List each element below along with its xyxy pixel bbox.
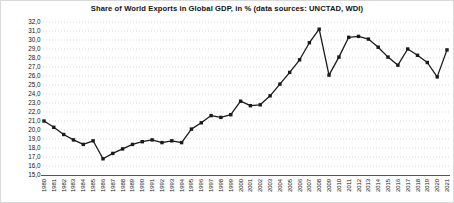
y-tick-label: 21,0 <box>28 117 41 124</box>
data-point-marker <box>288 71 291 74</box>
data-point-marker <box>160 141 163 144</box>
x-tick-label: 1981 <box>51 179 57 192</box>
data-point-marker <box>141 140 144 143</box>
data-point-marker <box>416 54 419 57</box>
x-tick-label: 2012 <box>356 179 362 192</box>
data-point-marker <box>209 114 212 117</box>
data-point-marker <box>170 139 173 142</box>
data-point-marker <box>445 48 448 51</box>
x-tick-label: 1982 <box>61 179 67 192</box>
y-tick-label: 32,0 <box>28 18 41 25</box>
x-tick-label: 1980 <box>41 178 47 192</box>
x-tick-label: 1992 <box>159 179 165 192</box>
x-tick-label: 2014 <box>375 178 381 192</box>
x-tick-label: 2002 <box>257 179 263 192</box>
x-tick-label: 1994 <box>179 178 185 192</box>
y-tick-label: 28,0 <box>28 54 41 61</box>
y-tick-label: 24,0 <box>28 90 41 97</box>
data-point-marker <box>121 147 124 150</box>
data-point-marker <box>219 116 222 119</box>
data-point-marker <box>406 47 409 50</box>
x-tick-label: 1984 <box>80 178 86 192</box>
data-point-marker <box>318 28 321 31</box>
data-point-marker <box>200 121 203 124</box>
y-tick-label: 17,0 <box>28 153 41 160</box>
x-tick-label: 2000 <box>238 178 244 192</box>
x-tick-label: 1985 <box>90 178 96 192</box>
x-tick-label: 1995 <box>188 178 194 192</box>
x-tick-label: 1988 <box>120 178 126 192</box>
y-tick-label: 23,0 <box>28 99 41 106</box>
y-tick-label: 20,0 <box>28 126 41 133</box>
x-tick-label: 2017 <box>405 179 411 192</box>
data-point-marker <box>357 35 360 38</box>
data-point-marker <box>82 143 85 146</box>
data-point-marker <box>259 103 262 106</box>
x-tick-label: 2011 <box>346 179 352 192</box>
x-tick-label: 1986 <box>100 178 106 192</box>
x-tick-label: 2003 <box>267 178 273 192</box>
data-point-marker <box>367 37 370 40</box>
x-tick-label: 2004 <box>277 178 283 192</box>
x-tick-label: 1997 <box>208 179 214 192</box>
x-tick-label: 2021 <box>444 179 450 192</box>
x-tick-label: 1996 <box>198 178 204 192</box>
data-point-marker <box>72 138 75 141</box>
y-tick-label: 27,0 <box>28 63 41 70</box>
data-point-marker <box>436 75 439 78</box>
data-point-marker <box>308 41 311 44</box>
data-point-marker <box>278 82 281 85</box>
data-point-marker <box>426 61 429 64</box>
y-tick-label: 18,0 <box>28 144 41 151</box>
data-point-marker <box>180 141 183 144</box>
y-tick-label: 30,0 <box>28 36 41 43</box>
x-tick-label: 2009 <box>326 179 332 192</box>
data-point-marker <box>377 46 380 49</box>
x-tick-label: 1993 <box>169 178 175 192</box>
y-tick-label: 31,0 <box>28 27 41 34</box>
data-point-marker <box>42 119 45 122</box>
data-point-marker <box>229 113 232 116</box>
data-point-marker <box>190 127 193 130</box>
data-point-marker <box>249 104 252 107</box>
y-tick-label: 15,0 <box>28 171 41 178</box>
data-point-marker <box>327 73 330 76</box>
data-line <box>44 29 447 159</box>
data-point-marker <box>52 126 55 129</box>
x-tick-label: 2016 <box>395 178 401 192</box>
data-point-marker <box>239 100 242 103</box>
data-point-marker <box>337 55 340 58</box>
y-tick-label: 22,0 <box>28 108 41 115</box>
x-tick-label: 2013 <box>365 178 371 192</box>
x-tick-label: 1983 <box>70 178 76 192</box>
data-point-marker <box>150 138 153 141</box>
x-tick-label: 2018 <box>415 178 421 192</box>
data-point-marker <box>91 139 94 142</box>
x-tick-label: 2020 <box>434 178 440 192</box>
y-tick-label: 25,0 <box>28 81 41 88</box>
data-point-marker <box>131 143 134 146</box>
data-point-marker <box>386 55 389 58</box>
data-point-marker <box>347 36 350 39</box>
x-tick-label: 1991 <box>149 179 155 192</box>
y-tick-label: 26,0 <box>28 72 41 79</box>
y-tick-label: 16,0 <box>28 162 41 169</box>
x-tick-label: 1998 <box>218 178 224 192</box>
x-tick-label: 2005 <box>287 178 293 192</box>
x-tick-label: 1999 <box>228 179 234 192</box>
data-point-marker <box>62 133 65 136</box>
data-point-marker <box>268 94 271 97</box>
x-tick-label: 1989 <box>129 179 135 192</box>
x-tick-label: 2006 <box>297 178 303 192</box>
x-tick-label: 2001 <box>247 179 253 192</box>
data-point-marker <box>101 157 104 160</box>
x-tick-label: 2015 <box>385 178 391 192</box>
x-tick-label: 2008 <box>316 178 322 192</box>
y-tick-label: 29,0 <box>28 45 41 52</box>
chart-container: Share of World Exports in Global GDP, in… <box>0 0 454 203</box>
x-tick-label: 2010 <box>336 178 342 192</box>
line-chart: 32,031,030,029,028,027,026,025,024,023,0… <box>1 1 454 203</box>
y-tick-label: 19,0 <box>28 135 41 142</box>
x-tick-label: 1987 <box>110 179 116 192</box>
x-tick-label: 2007 <box>306 179 312 192</box>
